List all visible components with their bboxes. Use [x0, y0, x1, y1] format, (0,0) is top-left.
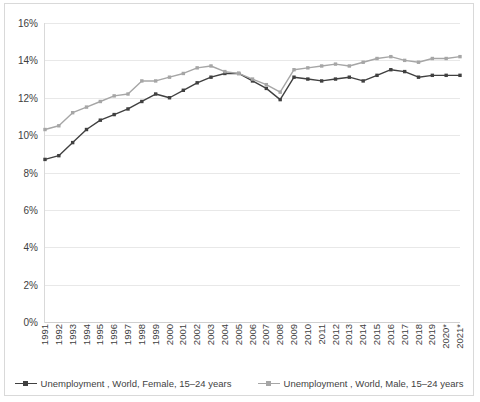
y-tick-label: 10% [18, 130, 38, 141]
data-point-marker [112, 94, 115, 97]
data-point-marker [417, 61, 420, 64]
data-point-marker [182, 89, 185, 92]
x-tick-label-2004: 2004 [220, 324, 230, 345]
x-tick-label-2012: 2012 [331, 324, 341, 345]
chart-container: 0%2%4%6%8%10%12%14%16% 19911992199319941… [4, 3, 474, 396]
x-tick-label-2014: 2014 [358, 324, 368, 345]
data-point-marker [140, 100, 143, 103]
data-point-marker [458, 55, 461, 58]
y-tick-label: 4% [24, 242, 38, 253]
data-point-marker [209, 75, 212, 78]
data-point-marker [444, 74, 447, 77]
data-point-marker [154, 92, 157, 95]
x-tick-label-2009: 2009 [289, 324, 299, 345]
gridline-0% [45, 322, 460, 323]
x-tick-label-2005: 2005 [234, 324, 244, 345]
data-point-marker [444, 57, 447, 60]
data-point-marker [182, 72, 185, 75]
data-point-marker [320, 79, 323, 82]
data-point-marker [71, 141, 74, 144]
x-tick-label-2000: 2000 [165, 324, 175, 345]
data-point-marker [320, 64, 323, 67]
data-point-marker [375, 74, 378, 77]
y-tick-label: 0% [24, 317, 38, 328]
x-tick-label-2008: 2008 [275, 324, 285, 345]
data-point-marker [168, 75, 171, 78]
x-tick-label-2019: 2019 [427, 324, 437, 345]
legend-item-male[interactable]: Unemployment , World, Male, 15–24 years [258, 378, 464, 389]
x-tick-label-1994: 1994 [82, 324, 92, 345]
data-point-marker [389, 55, 392, 58]
x-tick-label-2017: 2017 [400, 324, 410, 345]
legend-item-female[interactable]: Unemployment , World, Female, 15–24 year… [15, 378, 232, 389]
y-tick-label: 12% [18, 92, 38, 103]
data-point-marker [431, 57, 434, 60]
data-point-marker [361, 79, 364, 82]
data-point-marker [99, 100, 102, 103]
data-point-marker [57, 124, 60, 127]
data-point-marker [140, 79, 143, 82]
data-point-marker [292, 75, 295, 78]
x-tick-label-1996: 1996 [109, 324, 119, 345]
data-point-marker [43, 158, 46, 161]
x-tick-label-1991: 1991 [40, 324, 50, 345]
data-point-marker [85, 105, 88, 108]
x-tick-label-1993: 1993 [68, 324, 78, 345]
data-point-marker [85, 128, 88, 131]
legend-marker-icon [23, 381, 28, 386]
y-axis-labels: 0%2%4%6%8%10%12%14%16% [5, 23, 41, 322]
x-tick-label-2020star: 2020* [441, 324, 451, 349]
data-point-marker [168, 96, 171, 99]
data-point-marker [237, 72, 240, 75]
x-tick-label-2018: 2018 [414, 324, 424, 345]
data-point-marker [403, 70, 406, 73]
series-female [43, 68, 461, 161]
data-point-marker [278, 98, 281, 101]
y-tick-label: 6% [24, 204, 38, 215]
x-tick-label-2016: 2016 [386, 324, 396, 345]
data-point-marker [265, 87, 268, 90]
data-point-marker [417, 75, 420, 78]
data-point-marker [334, 62, 337, 65]
data-point-marker [306, 77, 309, 80]
data-point-marker [251, 77, 254, 80]
x-tick-label-2003: 2003 [206, 324, 216, 345]
data-point-marker [431, 74, 434, 77]
x-tick-label-2001: 2001 [178, 324, 188, 345]
y-tick-label: 2% [24, 279, 38, 290]
y-tick-label: 8% [24, 167, 38, 178]
legend-label: Unemployment , World, Female, 15–24 year… [41, 378, 232, 389]
data-point-marker [334, 77, 337, 80]
data-point-marker [223, 70, 226, 73]
data-point-marker [195, 81, 198, 84]
x-tick-label-1998: 1998 [137, 324, 147, 345]
data-point-marker [112, 113, 115, 116]
x-tick-label-2002: 2002 [192, 324, 202, 345]
x-tick-label-2007: 2007 [261, 324, 271, 345]
y-tick-label: 16% [18, 18, 38, 29]
series-layer [45, 23, 460, 322]
x-axis-labels: 1991199219931994199519961997199819992000… [45, 324, 460, 372]
data-point-marker [348, 64, 351, 67]
legend-marker-icon [266, 381, 271, 386]
data-point-marker [278, 90, 281, 93]
plot-area [45, 23, 460, 322]
x-tick-label-1999: 1999 [151, 324, 161, 345]
data-point-marker [403, 59, 406, 62]
data-point-marker [57, 154, 60, 157]
series-male [43, 55, 461, 131]
x-tick-label-1992: 1992 [54, 324, 64, 345]
data-point-marker [154, 79, 157, 82]
x-tick-label-2006: 2006 [248, 324, 258, 345]
data-point-marker [458, 74, 461, 77]
data-point-marker [43, 128, 46, 131]
x-tick-label-2011: 2011 [317, 324, 327, 344]
x-tick-label-2010: 2010 [303, 324, 313, 345]
data-point-marker [99, 118, 102, 121]
x-tick-label-1997: 1997 [123, 324, 133, 345]
data-point-marker [209, 64, 212, 67]
data-point-marker [348, 75, 351, 78]
data-point-marker [292, 68, 295, 71]
data-point-marker [306, 66, 309, 69]
series-line [45, 70, 460, 160]
